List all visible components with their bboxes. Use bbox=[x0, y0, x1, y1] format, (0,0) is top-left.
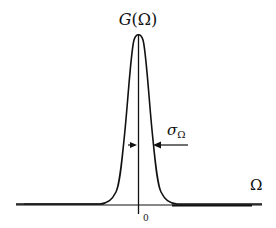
diagram-title: G(Ω) bbox=[119, 10, 158, 29]
sigma-label: σΩ bbox=[167, 121, 186, 140]
x-axis-label: Ω bbox=[250, 176, 262, 194]
arrowhead-right-icon bbox=[130, 142, 137, 148]
origin-tick-label: 0 bbox=[143, 213, 149, 223]
gaussian-diagram: G(Ω) σΩ Ω 0 bbox=[0, 0, 276, 228]
